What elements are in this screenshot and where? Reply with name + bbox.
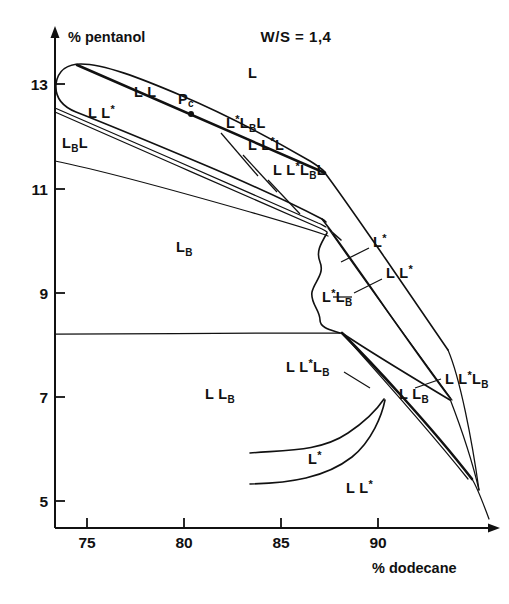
region-label-LLB-left: L LB (205, 386, 235, 405)
y-tick-label-11: 11 (32, 181, 49, 198)
phase-diagram-figure: 13 11 9 7 5 75 80 85 90 % pentanol % dod… (0, 0, 509, 604)
y-axis-arrowhead (51, 26, 60, 38)
region-label-Lstar-LB: L*LB (322, 287, 352, 308)
y-tick-label-5: 5 (39, 493, 48, 510)
x-tick-label-80: 80 (175, 534, 192, 551)
curve-right-lstar-upper (325, 173, 448, 350)
x-axis-arrowhead (488, 524, 500, 533)
region-label-LL: L L (134, 84, 156, 100)
x-tick-label-90: 90 (369, 534, 386, 551)
region-label-LLstar-bottom: L L* (346, 478, 373, 496)
region-label-Lstar-bottom: L* (308, 449, 322, 467)
region-labels: L L L L L* Pc LBL L*LBL L L*L L L*LBL LB… (62, 65, 489, 496)
leader-label-LLstar-LB-right: L L*LB (445, 369, 489, 390)
y-tick-label-13: 13 (31, 76, 49, 93)
curve-lb-lobe-wavy (312, 233, 340, 333)
curve-lower-llstar-lower (250, 400, 385, 484)
curve-vertex-converge-2 (450, 399, 479, 490)
x-tick-label-75: 75 (78, 534, 96, 551)
leader-ll-star-lb-left (344, 372, 370, 388)
x-tick-label-85: 85 (272, 534, 290, 551)
curve-vertex-tail (472, 479, 489, 519)
leader-ll-star-l (243, 155, 277, 192)
leader-label-Lstar-LB-L: L*LBL (226, 113, 266, 134)
curve-lens-chord (77, 65, 325, 173)
critical-point-marker (188, 111, 194, 117)
curve-node-tie-c (342, 333, 468, 479)
data-points (188, 111, 194, 117)
leader-llstar-right (354, 279, 382, 293)
region-label-LLstar: L L* (88, 103, 115, 121)
critical-point-label: Pc (178, 91, 194, 109)
leader-label-LLstar-L: L L*L (248, 135, 284, 153)
leader-label-LLstar-LB-left: L L*LB (286, 357, 330, 378)
x-axis-title: % dodecane (372, 560, 457, 576)
region-label-LLstar-right: L L* (386, 263, 413, 281)
region-label-Lstar-right: L* (373, 232, 387, 250)
axis-titles: % pentanol % dodecane W/S = 1,4 (68, 28, 457, 576)
condition-label: W/S = 1,4 (261, 28, 332, 45)
y-axis-title: % pentanol (68, 29, 145, 45)
phase-diagram-svg: 13 11 9 7 5 75 80 85 90 % pentanol % dod… (0, 0, 509, 604)
region-label-LB: LB (176, 239, 193, 258)
curve-lb-lobe-bottom (55, 333, 342, 334)
region-label-LBL: LBL (62, 135, 88, 154)
axis-group (51, 26, 501, 533)
y-tick-label-7: 7 (39, 389, 48, 406)
leader-ll-star-lb-l (268, 180, 300, 214)
leader-lines (221, 133, 441, 388)
y-tick-label-9: 9 (39, 285, 48, 302)
leader-label-LLstar-LB-L: L L*LBL (273, 160, 326, 181)
region-label-L: L (248, 65, 257, 81)
boundary-curves (55, 64, 489, 519)
